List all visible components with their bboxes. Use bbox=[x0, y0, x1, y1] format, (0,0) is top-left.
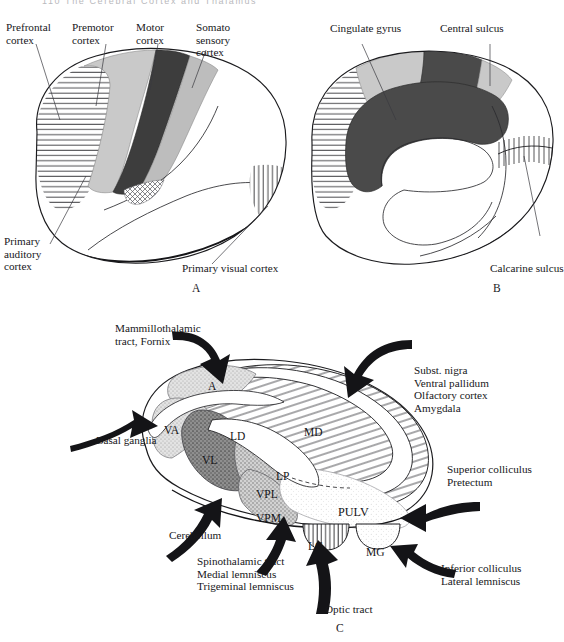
panel-letter-b: B bbox=[493, 282, 501, 294]
label-cingulate-gyrus: Cingulate gyrus bbox=[330, 22, 401, 35]
panel-letter-c: C bbox=[336, 622, 344, 634]
label-primary-auditory-cortex: Primaryauditorycortex bbox=[4, 235, 41, 273]
label-superior-colliculus-pretectum: Superior colliculusPretectum bbox=[447, 463, 532, 488]
nucleus-label-lp: LP bbox=[276, 470, 289, 482]
nucleus-label-vpl: VPL bbox=[256, 488, 278, 500]
label-calcarine-sulcus: Calcarine sulcus bbox=[490, 262, 564, 275]
label-subst-nigra-group: Subst. nigraVentral pallidumOlfactory co… bbox=[414, 364, 489, 414]
label-premotor-cortex: Premotorcortex bbox=[72, 21, 114, 46]
label-inferior-colliculus-lateral-lemniscus: Inferior colliculusLateral lemniscus bbox=[441, 562, 521, 587]
label-prefrontal-cortex: Prefrontalcortex bbox=[6, 21, 51, 46]
nucleus-label-mg: MG bbox=[366, 546, 385, 558]
nucleus-label-ld: LD bbox=[230, 430, 245, 442]
brain-medial-outline bbox=[312, 50, 554, 264]
nucleus-label-va: VA bbox=[164, 424, 180, 436]
panel-c-thalamus: A VA VL LD MD LP VPL VPM PULV LG MG bbox=[60, 318, 562, 628]
panel-letter-a: A bbox=[192, 282, 200, 294]
label-basal-ganglia: Basal ganglia bbox=[96, 434, 157, 447]
brain-lateral-outline bbox=[20, 34, 300, 284]
label-motor-cortex: Motorcortex bbox=[136, 21, 164, 46]
nucleus-label-vpm: VPM bbox=[256, 512, 281, 524]
label-optic-tract: Optic tract bbox=[325, 603, 373, 616]
label-mammillothalamic-tract-fornix: Mammillothalamictract, Fornix bbox=[115, 322, 201, 347]
label-cerebellum: Cerebellum bbox=[169, 529, 221, 542]
label-somatosensory-cortex: Somatosensorycortex bbox=[196, 21, 230, 59]
label-spinothalamic-group: Spinothalamic tractMedial lemniscusTrige… bbox=[197, 555, 294, 593]
nucleus-label-md: MD bbox=[304, 426, 323, 438]
panel-a-lateral-cortex: Prefrontalcortex Premotorcortex Motorcor… bbox=[0, 14, 300, 299]
label-primary-visual-cortex: Primary visual cortex bbox=[182, 262, 278, 275]
nucleus-label-pulv: PULV bbox=[338, 505, 369, 519]
nucleus-label-vl: VL bbox=[202, 454, 217, 466]
panel-b-medial-cortex: Cingulate gyrus Central sulcus Calcarine… bbox=[300, 14, 562, 299]
label-central-sulcus: Central sulcus bbox=[440, 22, 504, 35]
nucleus-label-a: A bbox=[208, 380, 217, 392]
running-head: 110 The Cerebral Cortex and Thalamus bbox=[42, 0, 257, 6]
